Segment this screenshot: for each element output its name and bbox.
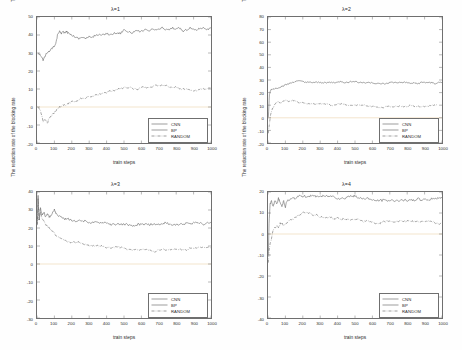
x-axis-ticks: 01002003004005006007008009001000: [36, 146, 212, 156]
x-axis-ticks: 01002003004005006007008009001000: [267, 321, 443, 331]
x-tick-label: 1000: [207, 321, 217, 326]
y-tick-label: 30: [3, 207, 35, 212]
x-axis-label: train steps: [267, 160, 443, 165]
series-line-random: [37, 198, 211, 252]
y-tick-label: 30: [3, 50, 35, 55]
x-tick-label: 1000: [438, 321, 448, 326]
x-tick-label: 500: [351, 146, 358, 151]
subplot-lambda-1: λ=1The reduction rate of the blocking ra…: [0, 0, 231, 175]
legend: CNNBPRANDOM: [148, 293, 208, 318]
figure-canvas: λ=1The reduction rate of the blocking ra…: [0, 0, 462, 350]
legend-line-sample: [151, 127, 168, 133]
subplot-title: λ=4: [231, 181, 462, 187]
legend-label: CNN: [402, 297, 411, 302]
series-line-random: [268, 212, 442, 262]
y-tick-label: -10: [3, 123, 35, 128]
x-axis-label: train steps: [36, 335, 212, 340]
x-axis-label: train steps: [267, 335, 443, 340]
y-tick-label: 20: [3, 225, 35, 230]
y-tick-label: 10: [234, 103, 266, 108]
y-tick-label: -20: [234, 142, 266, 147]
x-tick-label: 900: [191, 321, 198, 326]
legend-line-sample: [382, 296, 399, 302]
y-tick-label: 10: [234, 210, 266, 215]
subplot-lambda-3: λ=3The reduction rate of the blocking ra…: [0, 175, 231, 350]
series-line-cnn: [37, 195, 211, 226]
legend-item: RANDOM: [382, 308, 435, 314]
y-tick-label: 40: [3, 189, 35, 194]
x-tick-label: 700: [387, 146, 394, 151]
legend-line-sample: [151, 302, 168, 308]
y-tick-label: 70: [234, 26, 266, 31]
x-tick-label: 600: [369, 146, 376, 151]
legend-label: CNN: [171, 297, 180, 302]
x-tick-label: 200: [68, 321, 75, 326]
x-tick-label: 900: [191, 146, 198, 151]
legend-label: BP: [402, 303, 408, 308]
legend-label: BP: [171, 303, 177, 308]
x-tick-label: 100: [281, 146, 288, 151]
x-tick-label: 900: [422, 146, 429, 151]
x-tick-label: 500: [120, 146, 127, 151]
y-tick-label: 20: [234, 90, 266, 95]
y-tick-label: 0: [3, 105, 35, 110]
y-tick-label: -10: [234, 253, 266, 258]
x-tick-label: 700: [156, 146, 163, 151]
x-axis-label: train steps: [36, 160, 212, 165]
x-axis-ticks: 01002003004005006007008009001000: [267, 146, 443, 156]
x-tick-label: 0: [266, 321, 268, 326]
x-tick-label: 700: [156, 321, 163, 326]
subplot-title: λ=2: [231, 6, 462, 12]
y-tick-label: 10: [3, 87, 35, 92]
y-tick-label: -20: [234, 274, 266, 279]
x-tick-label: 300: [316, 146, 323, 151]
legend-label: BP: [402, 128, 408, 133]
y-tick-label: -20: [3, 298, 35, 303]
legend: CNNBPRANDOM: [379, 293, 439, 318]
y-tick-label: 30: [234, 78, 266, 83]
x-tick-label: 100: [50, 146, 57, 151]
legend-line-sample: [382, 121, 399, 127]
x-tick-label: 1000: [438, 146, 448, 151]
subplot-lambda-4: λ=4The reduction rate of the blocking ra…: [231, 175, 462, 350]
x-tick-label: 400: [334, 146, 341, 151]
x-tick-label: 800: [173, 146, 180, 151]
y-tick-label: 0: [234, 116, 266, 121]
x-tick-label: 100: [281, 321, 288, 326]
y-tick-label: -30: [3, 317, 35, 322]
legend: CNNBPRANDOM: [148, 118, 208, 143]
y-tick-label: 50: [3, 14, 35, 19]
legend-item: RANDOM: [151, 308, 204, 314]
y-tick-label: -10: [3, 280, 35, 285]
legend-line-sample: [151, 308, 168, 314]
y-tick-label: 80: [234, 14, 266, 19]
legend: CNNBPRANDOM: [379, 118, 439, 143]
x-tick-label: 300: [85, 146, 92, 151]
x-tick-label: 800: [404, 146, 411, 151]
legend-label: RANDOM: [171, 134, 190, 139]
x-axis-ticks: 01002003004005006007008009001000: [36, 321, 212, 331]
y-tick-label: 40: [3, 32, 35, 37]
x-tick-label: 100: [50, 321, 57, 326]
subplot-title: λ=3: [0, 181, 231, 187]
series-line-cnn: [268, 195, 442, 255]
legend-label: CNN: [171, 122, 180, 127]
x-tick-label: 200: [299, 321, 306, 326]
legend-line-sample: [382, 308, 399, 314]
x-tick-label: 300: [85, 321, 92, 326]
x-tick-label: 600: [138, 321, 145, 326]
y-axis-ticks: 403020100-10-20-30: [0, 191, 35, 319]
legend-label: RANDOM: [402, 309, 421, 314]
x-tick-label: 500: [120, 321, 127, 326]
x-tick-label: 0: [266, 146, 268, 151]
y-tick-label: 10: [3, 243, 35, 248]
legend-line-sample: [382, 127, 399, 133]
x-tick-label: 0: [35, 146, 37, 151]
y-axis-ticks: 20100-10-20-30-40: [231, 191, 266, 319]
x-tick-label: 500: [351, 321, 358, 326]
legend-line-sample: [151, 296, 168, 302]
legend-line-sample: [151, 133, 168, 139]
legend-line-sample: [382, 133, 399, 139]
legend-item: RANDOM: [151, 133, 204, 139]
subplot-title: λ=1: [0, 6, 231, 12]
